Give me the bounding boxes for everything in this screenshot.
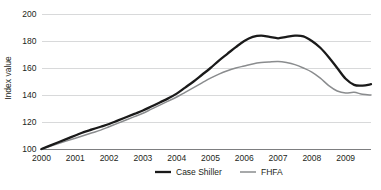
- legend-label-fhfa: FHFA: [261, 167, 283, 177]
- legend-label-case-shiller: Case Shiller: [176, 167, 222, 177]
- y-axis-tick-label: 160: [22, 63, 36, 73]
- x-axis-tick-label: 2000: [32, 153, 51, 163]
- chart-container: 200180160140120100 200020012002200320042…: [0, 0, 381, 190]
- x-axis-tick-label: 2009: [336, 153, 355, 163]
- y-axis-tick-label: 200: [22, 9, 36, 19]
- x-axis-tick-label: 2003: [133, 153, 152, 163]
- y-axis-tick-labels: 200180160140120100: [22, 9, 36, 154]
- y-axis-tick-label: 140: [22, 90, 36, 100]
- series-line-case-shiller: [42, 36, 372, 149]
- x-axis-tick-label: 2002: [100, 153, 119, 163]
- x-axis-tick-labels: 2000200120022003200420052006200720082009: [32, 153, 355, 163]
- y-axis-title-group: Index value: [3, 56, 13, 100]
- y-axis-tick-label: 120: [22, 117, 36, 127]
- x-axis-tick-label: 2001: [66, 153, 85, 163]
- legend: Case ShillerFHFA: [155, 167, 283, 177]
- x-axis-tick-label: 2005: [201, 153, 220, 163]
- gridlines-group: [42, 14, 372, 122]
- x-axis-tick-label: 2004: [167, 153, 186, 163]
- y-axis-title: Index value: [3, 56, 13, 100]
- x-axis-tick-label: 2006: [235, 153, 254, 163]
- series-line-fhfa: [42, 61, 372, 149]
- data-series-group: [42, 36, 372, 149]
- y-axis-tick-label: 180: [22, 36, 36, 46]
- x-axis-tick-label: 2007: [269, 153, 288, 163]
- x-axis-tick-label: 2008: [302, 153, 321, 163]
- line-chart: 200180160140120100 200020012002200320042…: [0, 0, 381, 190]
